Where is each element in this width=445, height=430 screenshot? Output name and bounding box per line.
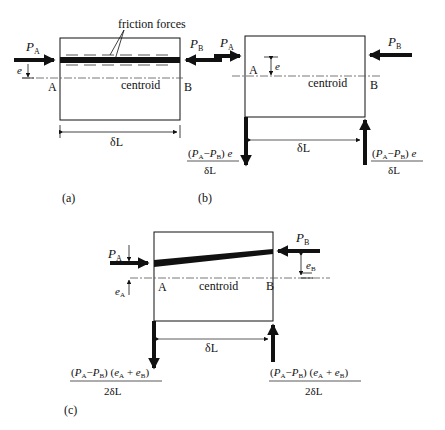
force-pa-label: PA (219, 35, 234, 52)
tendon-bar (154, 249, 273, 267)
svg-text:2δL: 2δL (305, 385, 323, 397)
point-b-label: B (184, 80, 192, 94)
leader-line (110, 30, 124, 55)
panel-b: PA PB e centroid A B δL (PA−PB) e δL (PA… (187, 34, 423, 205)
reaction-formula-left: (PA−PB) (eA + eB) 2δL (70, 366, 162, 397)
svg-text:δL: δL (204, 164, 216, 176)
svg-text:(PA−PB) e: (PA−PB) e (188, 147, 233, 161)
point-b-label: B (370, 78, 378, 92)
length-label: δL (205, 341, 218, 355)
prestress-friction-diagram: friction forces PA PB e centroid A B δL … (0, 0, 445, 430)
length-label: δL (297, 141, 310, 155)
caption-b: (b) (198, 191, 212, 205)
ecc-b-label: eB (306, 259, 316, 273)
caption-c: (c) (64, 403, 77, 417)
caption-a: (a) (62, 191, 75, 205)
centroid-label: centroid (199, 279, 238, 293)
reaction-formula-right: (PA−PB) e δL (371, 147, 423, 176)
ecc-label: e (275, 60, 280, 72)
centroid-label: centroid (121, 78, 160, 92)
length-label: δL (110, 135, 123, 149)
point-b-label: B (266, 279, 274, 293)
force-pa-label: PA (25, 39, 40, 56)
svg-text:δL: δL (388, 164, 400, 176)
svg-text:(PA−PB) (eA + eB): (PA−PB) (eA + eB) (270, 366, 348, 380)
force-pa-label: PA (107, 246, 122, 263)
point-a-label: A (48, 80, 57, 94)
force-pb-label: PB (295, 230, 309, 247)
friction-label: friction forces (118, 17, 186, 31)
reaction-formula-right: (PA−PB) (eA + eB) 2δL (269, 366, 361, 397)
svg-text:2δL: 2δL (104, 385, 122, 397)
tendon-bar (60, 57, 180, 63)
force-pb-label: PB (387, 34, 401, 51)
panel-a: friction forces PA PB e centroid A B δL … (14, 17, 222, 205)
ecc-label: e (17, 64, 22, 76)
reaction-formula-left: (PA−PB) e δL (187, 147, 239, 176)
svg-text:(PA−PB) e: (PA−PB) e (372, 147, 417, 161)
centroid-label: centroid (308, 76, 347, 90)
point-a-label: A (249, 63, 258, 77)
ecc-a-label: eA (115, 285, 125, 299)
point-a-label: A (158, 280, 167, 294)
force-pb-label: PB (189, 36, 203, 53)
element-body (154, 232, 273, 321)
svg-text:(PA−PB) (eA + eB): (PA−PB) (eA + eB) (71, 366, 149, 380)
panel-c: PA PB centroid A B eA eB δL (PA−PB) (eA … (64, 230, 361, 417)
element-body (60, 38, 180, 120)
